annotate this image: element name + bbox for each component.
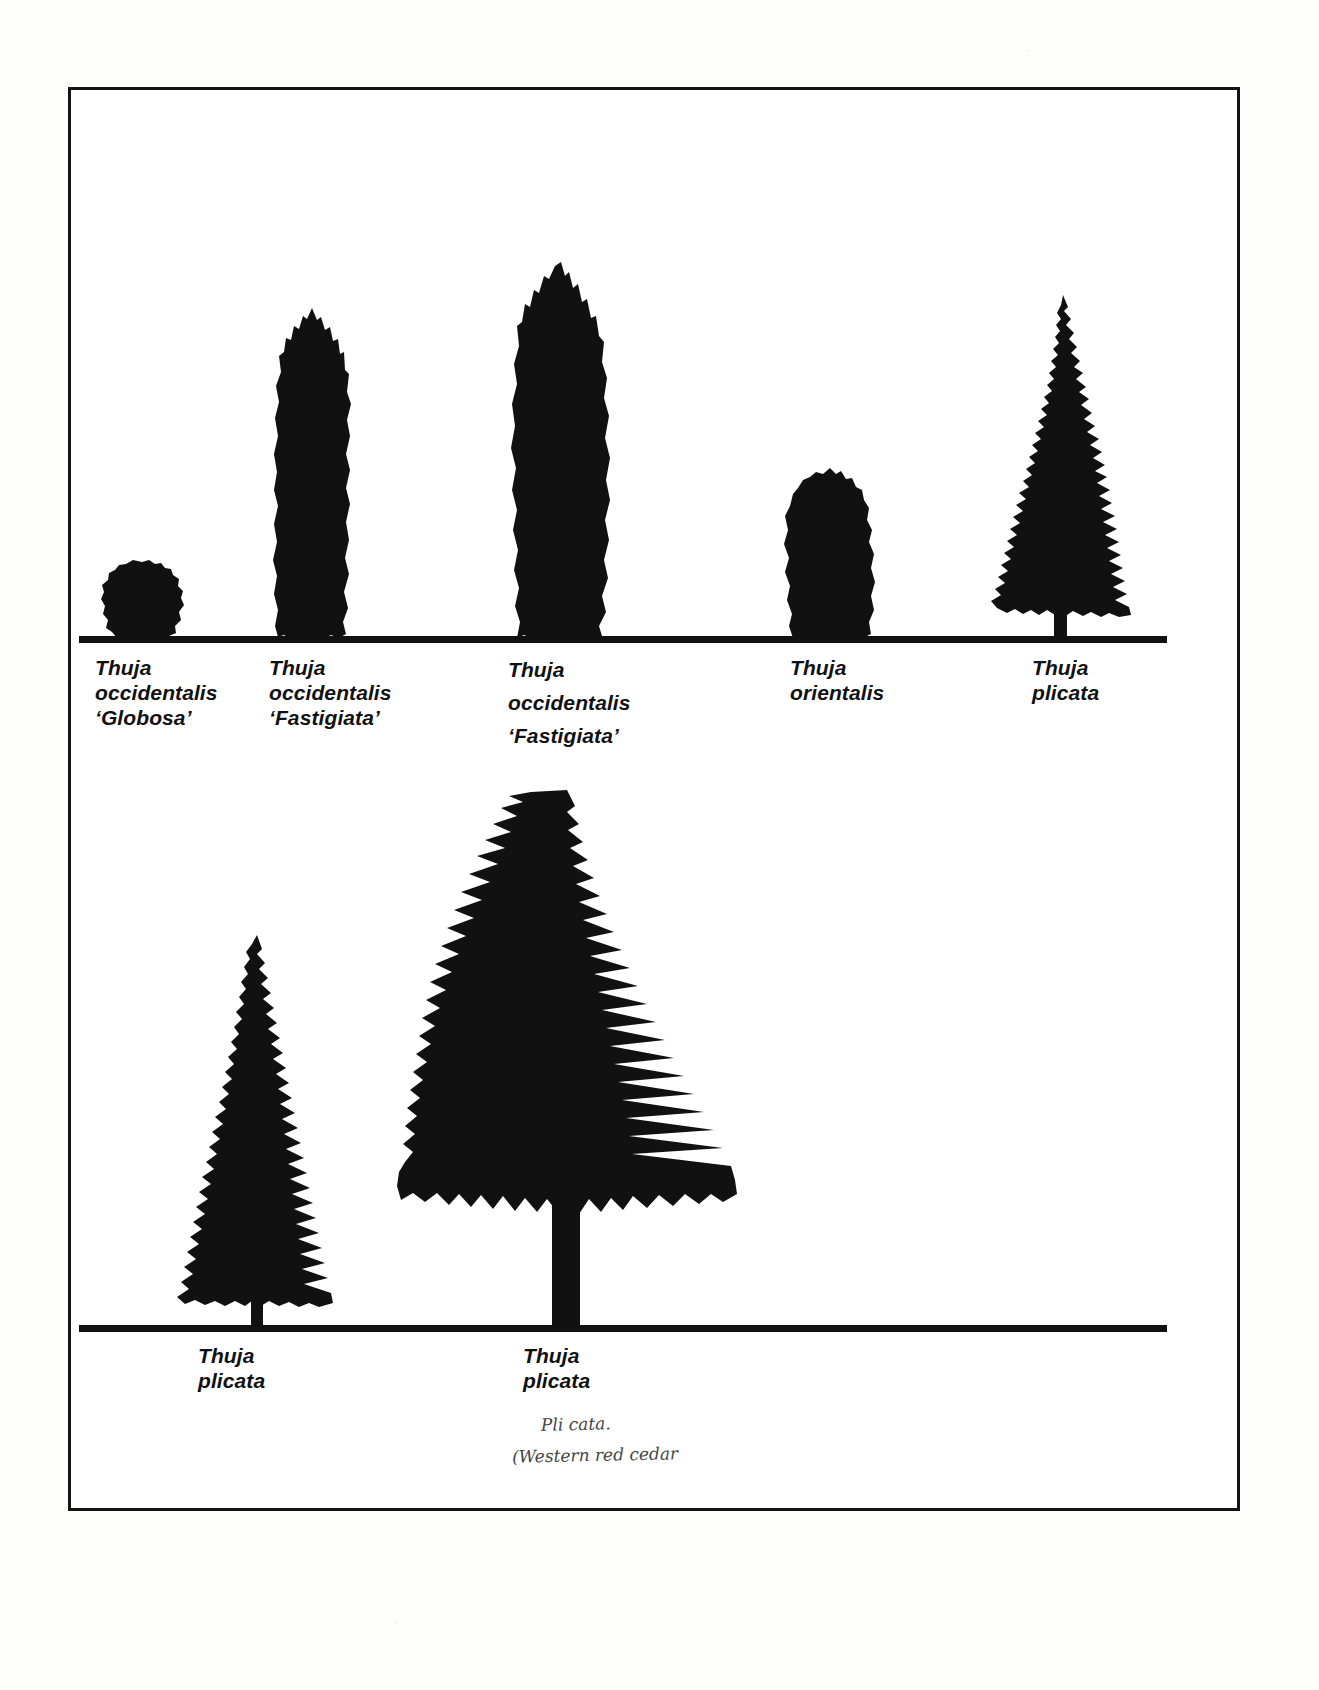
label-thuja-plicata-narrow: Thuja plicata xyxy=(198,1343,378,1393)
tree-thuja-plicata-broad xyxy=(397,790,737,1330)
illustration-frame: Thuja occidentalis ‘Globosa’ Thuja occid… xyxy=(68,87,1240,1511)
scanned-page: Thuja occidentalis ‘Globosa’ Thuja occid… xyxy=(0,0,1319,1690)
tree-thuja-plicata-narrow xyxy=(177,935,333,1330)
handwritten-note-line1: Pli cata. xyxy=(541,1410,611,1438)
handwritten-note-line2: (Western red cedar xyxy=(512,1440,679,1470)
lower-plate: Thuja plicata Thuja plicata Pli cata. (W… xyxy=(71,90,1237,1508)
label-thuja-plicata-broad: Thuja plicata xyxy=(523,1343,713,1393)
